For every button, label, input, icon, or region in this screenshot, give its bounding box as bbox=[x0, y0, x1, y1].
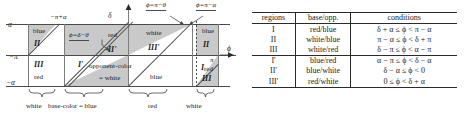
region-II-right-color: blue bbox=[202, 28, 214, 35]
table-row: III' red/white 0 ≤ ϕ < δ + α bbox=[252, 76, 457, 87]
cell-base-opp: white/blue bbox=[295, 34, 351, 44]
header-regions: regions bbox=[252, 13, 295, 24]
cell-region: III' bbox=[252, 76, 295, 87]
cell-base-opp: blue/red bbox=[295, 55, 351, 66]
region-IIIprime-label: III' bbox=[148, 44, 160, 52]
region-IIprime-color: red bbox=[108, 32, 117, 39]
braces bbox=[22, 88, 222, 102]
cell-region: I' bbox=[252, 55, 295, 66]
region-IIIprime-color: white bbox=[146, 30, 162, 37]
brace-label-base-color: base-color = blue bbox=[48, 103, 97, 110]
opponent-color-value: = white bbox=[99, 75, 120, 82]
cell-region: II' bbox=[252, 66, 295, 76]
table-header-row: regions base/opp. conditions bbox=[252, 13, 457, 24]
cell-condition: δ − α ≤ ϕ < 0 bbox=[351, 66, 457, 76]
cell-condition: π − α ≤ ϕ < δ + π bbox=[351, 34, 457, 44]
tick-label-pi: π bbox=[210, 57, 214, 64]
region-Iprime-label: I' bbox=[78, 61, 83, 69]
header-conditions: conditions bbox=[351, 13, 457, 24]
cell-region: II bbox=[252, 34, 295, 44]
regions-table: regions base/opp. conditions I red/blue … bbox=[252, 12, 457, 88]
brace-label-white-left: white bbox=[26, 103, 42, 110]
axis-label-delta: δ bbox=[108, 12, 112, 20]
region-II-right-label: II bbox=[203, 41, 209, 49]
regions-table-element: regions base/opp. conditions I red/blue … bbox=[252, 12, 457, 88]
tick-label-minus-pi-plus-alpha: −π+α bbox=[50, 14, 67, 21]
table-row: I' blue/red α − π ≤ ϕ < δ − α bbox=[252, 55, 457, 66]
plot-area: blue II III red ϕ=δ−θ red II' I' opponen… bbox=[22, 24, 218, 86]
cell-condition: 0 ≤ ϕ < δ + α bbox=[351, 76, 457, 87]
cell-base-opp: red/white bbox=[295, 76, 351, 87]
brace-label-white-right: white bbox=[186, 103, 202, 110]
opponent-color-label: opponent-color bbox=[89, 63, 132, 70]
cell-condition: δ − π ≤ ϕ < α − π bbox=[351, 45, 457, 56]
cell-condition: α − π ≤ ϕ < δ − α bbox=[351, 55, 457, 66]
phase-diagram: ϕ=π−θ ϕ=π−α δ −π+α α −π −α bbox=[0, 0, 236, 124]
cell-condition: δ + α ≤ ϕ < π − α bbox=[351, 24, 457, 35]
region-IIprime-label: II' bbox=[108, 46, 116, 54]
cell-region: I bbox=[252, 24, 295, 35]
table-row: I red/blue δ + α ≤ ϕ < π − α bbox=[252, 24, 457, 35]
figure-root: ϕ=π−θ ϕ=π−α δ −π+α α −π −α bbox=[0, 0, 464, 124]
cell-base-opp: blue/white bbox=[295, 66, 351, 76]
brace-label-red: red bbox=[148, 103, 157, 110]
table-row: II' blue/white δ − α ≤ ϕ < 0 bbox=[252, 66, 457, 76]
region-I-right-color: blue bbox=[150, 74, 162, 81]
axis-label-phi: ϕ bbox=[227, 45, 231, 53]
vline-right-2 bbox=[218, 24, 219, 86]
table-row: III white/red δ − π ≤ ϕ < α − π bbox=[252, 45, 457, 56]
region-III-right-label: III bbox=[202, 75, 211, 83]
cell-base-opp: red/blue bbox=[295, 24, 351, 35]
table-row: II white/blue π − α ≤ ϕ < δ + π bbox=[252, 34, 457, 44]
cell-base-opp: white/red bbox=[295, 45, 351, 56]
cell-region: III bbox=[252, 45, 295, 56]
header-base-opp: base/opp. bbox=[295, 13, 351, 24]
delta-axis-arrow bbox=[124, 4, 134, 14]
region-III-right-color: red bbox=[204, 66, 213, 73]
